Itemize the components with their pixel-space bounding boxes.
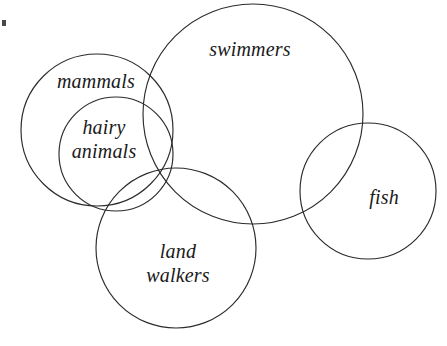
venn-diagram: mammals hairy animals swimmers land walk… <box>0 0 447 346</box>
label-land-walkers-line2: walkers <box>146 264 210 286</box>
label-swimmers: swimmers <box>209 38 291 62</box>
circle-swimmers[interactable] <box>143 4 363 224</box>
label-fish: fish <box>369 186 399 210</box>
label-land-walkers-line1: land <box>160 240 196 262</box>
label-land-walkers: land walkers <box>113 240 243 287</box>
label-hairy-animals-line2: animals <box>72 140 137 162</box>
label-hairy-animals: hairy animals <box>44 116 164 163</box>
circle-fish[interactable] <box>300 123 436 259</box>
scan-artifact-mark <box>2 20 6 26</box>
label-hairy-animals-line1: hairy <box>82 116 125 138</box>
label-mammals: mammals <box>57 70 135 94</box>
